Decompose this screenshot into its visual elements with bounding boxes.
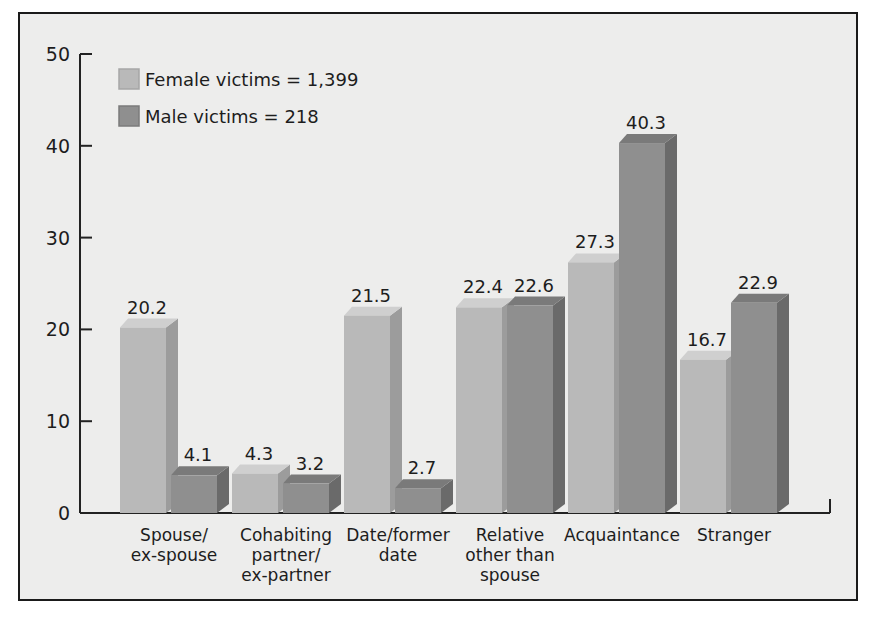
value-label: 4.1 xyxy=(184,444,213,465)
category-label: Stranger xyxy=(697,525,771,545)
value-label: 27.3 xyxy=(575,231,615,252)
y-tick-label: 0 xyxy=(58,502,70,524)
y-tick-label: 50 xyxy=(46,43,70,65)
bar-side-face xyxy=(777,294,789,513)
bar-female xyxy=(120,328,166,513)
category-label: ex-spouse xyxy=(131,545,218,565)
bar-female xyxy=(344,316,390,513)
bar-side-face xyxy=(553,297,565,513)
category-label: Acquaintance xyxy=(564,525,680,545)
category-label: partner/ xyxy=(252,545,321,565)
bar-male xyxy=(619,143,665,513)
value-label: 22.4 xyxy=(463,276,503,297)
value-label: 3.2 xyxy=(296,453,325,474)
category-label: date xyxy=(379,545,417,565)
bar-female xyxy=(680,360,726,513)
category-label: Spouse/ xyxy=(140,525,208,545)
category-label: spouse xyxy=(480,565,540,585)
y-tick-label: 20 xyxy=(46,318,70,340)
value-label: 16.7 xyxy=(687,329,727,350)
bar-male xyxy=(507,306,553,513)
value-label: 4.3 xyxy=(245,443,274,464)
value-label: 20.2 xyxy=(127,297,167,318)
legend-swatch-female xyxy=(119,69,139,89)
legend-label-male: Male victims = 218 xyxy=(145,106,319,127)
legend-label-female: Female victims = 1,399 xyxy=(145,69,358,90)
category-label: other than xyxy=(465,545,554,565)
bar-male xyxy=(171,475,217,513)
category-label: Cohabiting xyxy=(240,525,332,545)
legend-swatch-male xyxy=(119,106,139,126)
bar-male xyxy=(731,303,777,513)
bar-chart: 0102030405020.24.1Spouse/ex-spouse4.33.2… xyxy=(0,0,878,628)
bar-male xyxy=(283,484,329,513)
category-label: Relative xyxy=(476,525,545,545)
bar-female xyxy=(232,474,278,513)
bar-female xyxy=(568,262,614,513)
value-label: 2.7 xyxy=(408,457,437,478)
bar-side-face xyxy=(665,134,677,513)
value-label: 22.9 xyxy=(738,272,778,293)
y-tick-label: 10 xyxy=(46,410,70,432)
value-label: 21.5 xyxy=(351,285,391,306)
y-tick-label: 30 xyxy=(46,227,70,249)
bar-side-face xyxy=(390,307,402,513)
category-label: Date/former xyxy=(346,525,449,545)
category-label: ex-partner xyxy=(241,565,330,585)
bar-male xyxy=(395,488,441,513)
value-label: 40.3 xyxy=(626,112,666,133)
y-tick-label: 40 xyxy=(46,135,70,157)
bar-female xyxy=(456,307,502,513)
value-label: 22.6 xyxy=(514,275,554,296)
